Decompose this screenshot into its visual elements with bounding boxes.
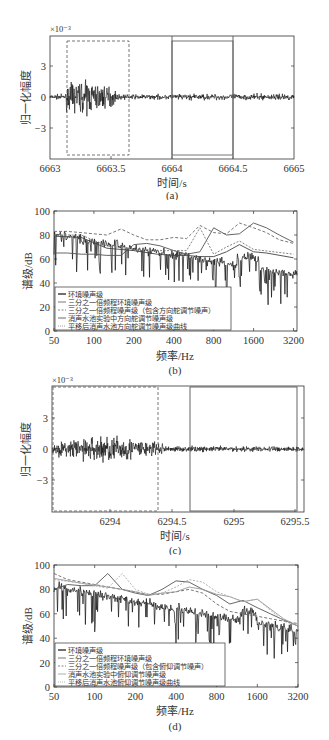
- ytick-b-80: 80: [40, 230, 51, 241]
- legend-d: 环境噪声级 三分之一倍频程环境噪声级 三分之一倍频程噪声级（包含俯仰调节噪声） …: [55, 643, 225, 687]
- xtick-d-0: 50: [49, 691, 60, 702]
- chart-b: 100 80 60 40 20 0 5010020040080016003200…: [0, 200, 329, 380]
- xtick-d-1: 100: [87, 691, 103, 702]
- xtick-a-3: 6664.5: [219, 163, 248, 174]
- xlabel-c: 时间/s: [160, 530, 189, 542]
- y-multiplier-c: ×10⁻³: [52, 375, 73, 385]
- xtick-b-4: 800: [206, 335, 222, 346]
- waveform-c: [52, 436, 304, 463]
- ylabel-b: 谱级/dB: [21, 252, 34, 290]
- y-multiplier-a: ×10⁻³: [50, 24, 71, 34]
- ylabel-d: 谱级/dB: [21, 607, 34, 645]
- ytick-c-neg3: −3: [37, 475, 48, 486]
- ytick-a-neg3: −3: [35, 123, 46, 134]
- ytick-d-100: 100: [34, 560, 50, 571]
- xtick-c-0: 6294: [100, 516, 122, 527]
- ylabel-a: 归一化幅度: [19, 70, 32, 125]
- xtick-a-2: 6664: [162, 163, 184, 174]
- chart-d: 100 80 60 40 20 0 5010020040080016003200…: [0, 555, 329, 740]
- xtick-b-3: 400: [166, 335, 182, 346]
- ytick-b-60: 60: [40, 254, 51, 265]
- legend-b-item-4: 平移后消声水池方向舵调节噪声级曲线: [68, 322, 187, 331]
- caption-c: (c): [169, 544, 182, 555]
- legend-d-item-4: 平移后消声水池俯仰调节噪声级曲线: [68, 678, 180, 687]
- ytick-d-20: 20: [40, 658, 51, 669]
- chart-c: ×10⁻³ 3 0 −3 6294 6294.5 6295 6295.5 时间/…: [0, 375, 329, 555]
- octave-lines-d: [54, 574, 298, 627]
- ylabel-c: 归一化幅度: [19, 422, 32, 477]
- chart-a: ×10⁻³ 3 0 −3 6663 6663.5 6664 6664.5 666…: [0, 0, 329, 200]
- xtick-a-4: 6665: [284, 163, 305, 174]
- ytick-b-20: 20: [40, 302, 51, 313]
- ytick-b-100: 100: [34, 206, 50, 217]
- ytick-c-3: 3: [43, 413, 48, 424]
- xlabel-a: 时间/s: [157, 177, 186, 189]
- ytick-c-0: 0: [43, 444, 48, 455]
- caption-d: (d): [169, 720, 182, 733]
- xtick-d-3: 400: [168, 691, 184, 702]
- xtick-c-2: 6295: [224, 516, 245, 527]
- xtick-b-1: 100: [86, 335, 102, 346]
- xtick-b-6: 3200: [283, 335, 304, 346]
- xlabel-b: 频率/Hz: [156, 349, 194, 362]
- xtick-c-3: 6295.5: [281, 516, 310, 527]
- xtick-d-4: 800: [209, 691, 225, 702]
- ytick-d-80: 80: [40, 584, 51, 595]
- xtick-c-1: 6294.5: [158, 516, 187, 527]
- ytick-a-0: 0: [41, 92, 46, 103]
- xtick-a-1: 6663.5: [97, 163, 126, 174]
- ytick-a-3: 3: [41, 61, 46, 72]
- ytick-d-60: 60: [40, 609, 51, 620]
- xtick-b-2: 200: [126, 335, 142, 346]
- xtick-b-5: 1600: [243, 335, 264, 346]
- xtick-d-2: 200: [127, 691, 143, 702]
- ytick-d-40: 40: [40, 633, 51, 644]
- ytick-b-40: 40: [40, 278, 51, 289]
- xtick-a-0: 6663: [40, 163, 61, 174]
- xlabel-d: 频率/Hz: [156, 704, 194, 717]
- xtick-d-6: 3200: [288, 691, 309, 702]
- caption-a: (a): [166, 189, 179, 200]
- xtick-d-5: 1600: [247, 691, 268, 702]
- legend-b: 环境噪声级 三分之一倍频程环境噪声级 三分之一倍频程噪声级（包含方向舵调节噪声）…: [55, 287, 231, 331]
- xtick-b-0: 50: [49, 335, 60, 346]
